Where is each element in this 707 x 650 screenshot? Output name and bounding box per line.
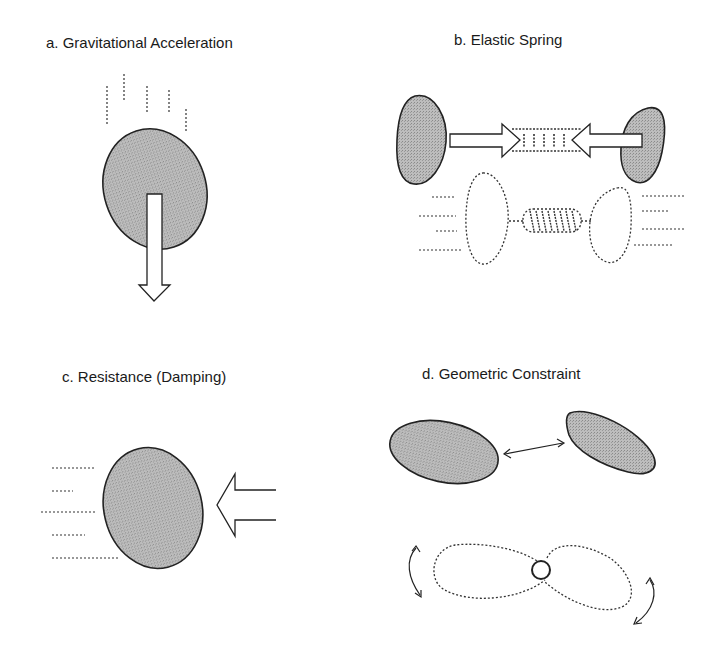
motion-lines-b [419,196,684,250]
panel-d-diagram [384,411,655,624]
diagram-canvas [0,0,707,650]
extended-spring [509,209,592,232]
distance-arrow [504,439,564,458]
left-body-ghost [466,173,508,264]
right-link-body [567,411,656,473]
panel-a-diagram [88,74,223,301]
panel-b-diagram [397,96,684,265]
left-compression-arrow [450,124,520,157]
rotation-arrow-right [634,578,654,624]
right-body-ghost [590,187,632,262]
left-body [397,96,446,185]
left-link-body [384,411,504,493]
rotation-arrow-left [409,546,421,597]
pivot-joint [532,561,550,579]
left-link-ghost [434,544,545,598]
right-link-ghost [545,546,631,610]
resistance-arrow [217,474,276,536]
panel-c-diagram [41,437,276,579]
motion-lines [107,74,186,131]
